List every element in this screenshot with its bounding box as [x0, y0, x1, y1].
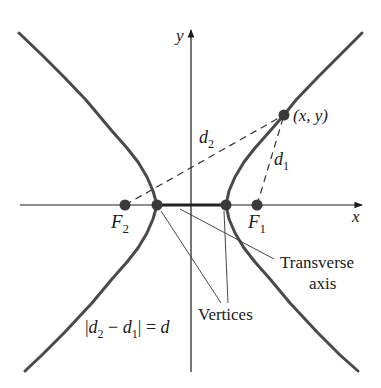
- x-axis-label: x: [351, 207, 360, 226]
- focus-f2-point: [120, 200, 131, 211]
- d2-label: d2: [199, 127, 214, 151]
- focus-f1-label: F1: [247, 211, 266, 236]
- curve-point-label: (x, y): [293, 106, 328, 125]
- vertex-leader-right: [224, 211, 228, 303]
- curve-point: [279, 110, 290, 121]
- y-axis-label: y: [174, 26, 184, 45]
- vertex-right-point: [221, 200, 232, 211]
- transverse-axis-label-line1: Transverse: [280, 253, 354, 272]
- vertices-label: Vertices: [198, 305, 253, 324]
- focus-f2-label: F2: [110, 211, 129, 236]
- hyperbola-diagram: y x (x, y) d2 d1 F2 F1 Transverse axis V…: [0, 0, 381, 388]
- definition-equation: |d2 − d1| = d: [85, 317, 171, 341]
- d1-label: d1: [274, 149, 289, 173]
- focus-f1-point: [252, 200, 263, 211]
- vertex-left-point: [152, 200, 163, 211]
- transverse-axis-label-line2: axis: [309, 274, 336, 293]
